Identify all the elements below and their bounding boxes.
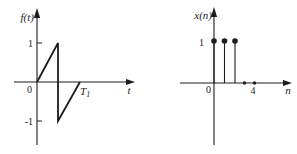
right-plot-x-of-n: x(n) 1 0 4 n (180, 7, 292, 145)
left-y-axis-arrow-icon (34, 8, 40, 18)
left-origin-label: 0 (27, 84, 32, 95)
dual-signal-figure: f(t) 1 -1 0 T1 t x(n) (0, 0, 297, 154)
left-xlabel: t (127, 84, 131, 96)
zero-dot-n3 (243, 81, 246, 84)
stem-dot-n0 (211, 38, 217, 44)
stem-dot-n2 (232, 38, 238, 44)
left-ylabel: f(t) (21, 11, 35, 24)
left-tick-label-one: 1 (28, 38, 33, 49)
left-T1-subscript: 1 (86, 90, 90, 99)
right-xlabel: n (285, 84, 291, 96)
right-tick-label-one: 1 (199, 37, 204, 48)
right-ylabel: x(n) (193, 9, 212, 22)
right-origin-label: 0 (206, 84, 211, 95)
figure-canvas: f(t) 1 -1 0 T1 t x(n) (0, 0, 297, 154)
stem-dot-n1 (222, 38, 228, 44)
left-tick-label-neg-one: -1 (25, 116, 33, 127)
right-tick-label-four: 4 (251, 85, 256, 96)
left-plot-f-of-t: f(t) 1 -1 0 T1 t (14, 8, 135, 145)
left-T1-label: T1 (80, 85, 90, 99)
